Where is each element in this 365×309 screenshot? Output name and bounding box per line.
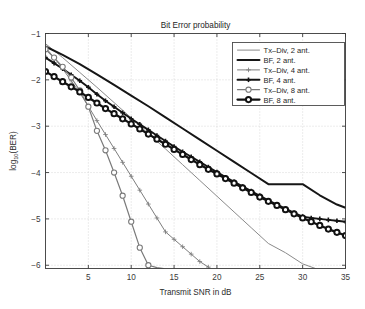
legend-marker (246, 87, 251, 92)
y-tick-label: −6 (31, 261, 41, 270)
legend: Tx–Div, 2 ant.BF, 2 ant.Tx–Div, 4 ant.BF… (233, 43, 345, 106)
marker (94, 128, 99, 133)
y-tick-label: −5 (31, 215, 41, 224)
x-tick-label: 5 (86, 273, 91, 282)
legend-marker (246, 97, 251, 102)
marker (206, 167, 211, 172)
x-tick-label: 15 (170, 273, 180, 282)
marker (129, 219, 134, 224)
legend-label: BF, 2 ant. (264, 56, 296, 65)
x-tick-label: 30 (298, 273, 308, 282)
legend-label: Tx–Div, 8 ant. (264, 86, 310, 95)
marker (94, 100, 99, 105)
x-tick-label: 10 (127, 273, 137, 282)
marker (231, 181, 236, 186)
marker (154, 137, 159, 142)
legend-label: Tx–Div, 2 ant. (264, 46, 310, 55)
marker (60, 79, 65, 84)
marker (240, 185, 245, 190)
marker (120, 116, 125, 121)
marker (69, 75, 74, 80)
chart-figure: 5101520253035−1−2−3−4−5−6Bit Error proba… (0, 0, 365, 309)
marker (146, 131, 151, 136)
marker (326, 227, 331, 232)
marker (51, 74, 56, 79)
marker (334, 230, 339, 235)
marker (317, 223, 322, 228)
marker (163, 142, 168, 147)
legend-label: BF, 8 ant. (264, 96, 296, 105)
marker (257, 195, 262, 200)
x-tick-label: 35 (341, 273, 351, 282)
marker (86, 95, 91, 100)
marker (197, 162, 202, 167)
y-tick-label: −4 (31, 169, 41, 178)
legend-label: Tx–Div, 4 ant. (264, 66, 310, 75)
marker (223, 176, 228, 181)
marker (283, 207, 288, 212)
marker (77, 89, 82, 94)
marker (137, 245, 142, 250)
x-tick-label: 20 (212, 273, 222, 282)
marker (103, 106, 108, 111)
marker (180, 152, 185, 157)
y-axis-label: log10(BER) (9, 131, 19, 171)
y-tick-label: −2 (31, 76, 41, 85)
chart-title: Bit Error probability (161, 21, 232, 30)
x-axis-label: Transmit SNR in dB (159, 288, 232, 297)
marker (189, 157, 194, 162)
marker (120, 193, 125, 198)
y-tick-label: −3 (31, 122, 41, 131)
x-tick-label: 25 (255, 273, 265, 282)
marker (103, 148, 108, 153)
svg-text:log10(BER): log10(BER) (9, 131, 19, 171)
marker (291, 211, 296, 216)
bit-error-probability-chart: 5101520253035−1−2−3−4−5−6Bit Error proba… (0, 0, 365, 309)
marker (214, 171, 219, 176)
marker (274, 203, 279, 208)
marker (171, 147, 176, 152)
marker (249, 190, 254, 195)
marker (300, 215, 305, 220)
y-tick-label: −1 (31, 30, 41, 39)
marker (309, 219, 314, 224)
marker (111, 170, 116, 175)
marker (60, 64, 65, 69)
marker (146, 263, 151, 268)
marker (69, 84, 74, 89)
marker (86, 104, 91, 109)
marker (137, 126, 142, 131)
legend-label: BF, 4 ant. (264, 76, 296, 85)
marker (266, 199, 271, 204)
marker (51, 55, 56, 60)
marker (129, 121, 134, 126)
marker (111, 111, 116, 116)
